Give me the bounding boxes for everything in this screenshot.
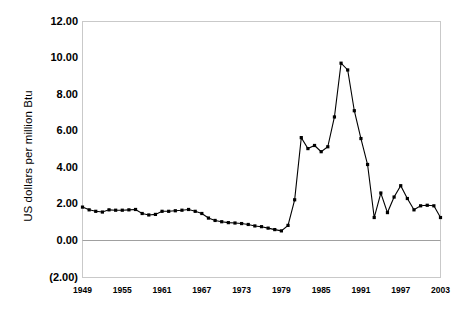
- data-point-marker: [333, 115, 336, 118]
- data-point-marker: [353, 109, 356, 112]
- data-point-marker: [220, 220, 223, 223]
- data-point-marker: [233, 221, 236, 224]
- data-point-marker: [94, 210, 97, 213]
- data-point-marker: [392, 195, 395, 198]
- data-point-marker: [141, 212, 144, 215]
- data-point-marker: [253, 224, 256, 227]
- data-point-marker: [373, 216, 376, 219]
- data-point-marker: [300, 136, 303, 139]
- data-point-marker: [180, 209, 183, 212]
- data-point-marker: [107, 208, 110, 211]
- data-point-marker: [260, 225, 263, 228]
- data-point-marker: [313, 144, 316, 147]
- data-point-marker: [187, 208, 190, 211]
- data-point-marker: [154, 213, 157, 216]
- data-point-marker: [114, 209, 117, 212]
- data-point-marker: [127, 208, 130, 211]
- data-point-marker: [346, 68, 349, 71]
- data-point-marker: [359, 137, 362, 140]
- data-point-marker: [399, 184, 402, 187]
- data-point-marker: [432, 204, 435, 207]
- data-point-marker: [213, 219, 216, 222]
- data-point-marker: [240, 222, 243, 225]
- data-point-marker: [293, 198, 296, 201]
- data-point-marker: [306, 147, 309, 150]
- data-point-marker: [267, 227, 270, 230]
- data-point-marker: [134, 208, 137, 211]
- data-point-marker: [280, 229, 283, 232]
- data-point-marker: [200, 212, 203, 215]
- data-point-marker: [286, 224, 289, 227]
- data-point-marker: [406, 197, 409, 200]
- data-point-marker: [439, 216, 442, 219]
- plot-frame: [83, 22, 441, 278]
- data-point-marker: [167, 210, 170, 213]
- data-point-marker: [121, 209, 124, 212]
- data-point-marker: [174, 209, 177, 212]
- data-point-marker: [320, 150, 323, 153]
- data-point-marker: [81, 206, 84, 209]
- data-point-marker: [386, 211, 389, 214]
- data-point-marker: [247, 223, 250, 226]
- data-point-marker: [207, 216, 210, 219]
- data-point-marker: [326, 145, 329, 148]
- data-point-marker: [160, 210, 163, 213]
- data-point-marker: [339, 62, 342, 65]
- data-point-marker: [88, 208, 91, 211]
- data-point-marker: [227, 221, 230, 224]
- data-point-marker: [194, 210, 197, 213]
- data-point-marker: [426, 204, 429, 207]
- data-point-marker: [147, 213, 150, 216]
- chart-container: US dollars per million Btu 12.0010.008.0…: [0, 0, 461, 318]
- data-point-marker: [273, 228, 276, 231]
- data-point-marker: [412, 208, 415, 211]
- data-point-marker: [366, 163, 369, 166]
- data-point-marker: [419, 204, 422, 207]
- chart-plot-area: [0, 0, 461, 318]
- data-point-marker: [379, 191, 382, 194]
- data-point-marker: [101, 210, 104, 213]
